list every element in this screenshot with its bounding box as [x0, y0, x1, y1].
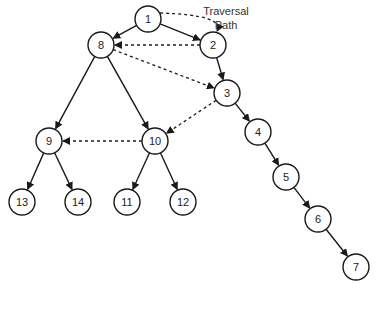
edge-10-12 — [160, 153, 177, 189]
node-7: 7 — [343, 254, 369, 280]
node-label: 12 — [177, 196, 189, 208]
edge-6-7 — [326, 229, 347, 256]
node-label: 11 — [121, 196, 132, 208]
caption-line1: Traversal — [203, 5, 248, 17]
node-label: 1 — [145, 13, 151, 25]
node-label: 4 — [255, 126, 261, 138]
node-label: 2 — [210, 39, 216, 51]
node-4: 4 — [245, 119, 271, 145]
traversal-3-10 — [167, 100, 217, 133]
caption-line2: Path — [215, 19, 238, 31]
node-label: 9 — [46, 135, 52, 147]
tree-diagram: 1283910413141112567 Traversal Path — [0, 0, 378, 312]
node-11: 11 — [114, 189, 140, 215]
node-8: 8 — [88, 32, 114, 58]
node-label: 5 — [283, 171, 289, 183]
node-label: 14 — [72, 196, 84, 208]
node-6: 6 — [305, 206, 331, 232]
tree-edges — [28, 24, 348, 256]
edge-4-5 — [265, 143, 279, 165]
edge-8-9 — [56, 56, 95, 128]
node-label: 3 — [224, 87, 230, 99]
node-1: 1 — [135, 6, 161, 32]
node-label: 8 — [98, 39, 104, 51]
node-label: 6 — [315, 213, 321, 225]
node-14: 14 — [65, 189, 91, 215]
edge-1-2 — [160, 24, 200, 40]
edge-8-10 — [107, 56, 148, 128]
node-label: 10 — [149, 135, 161, 147]
node-12: 12 — [170, 189, 196, 215]
edge-1-8 — [113, 25, 136, 38]
node-label: 7 — [353, 261, 359, 273]
traversal-8-3 — [113, 50, 214, 88]
node-2: 2 — [200, 32, 226, 58]
node-label: 13 — [16, 196, 28, 208]
node-5: 5 — [273, 164, 299, 190]
node-10: 10 — [142, 128, 168, 154]
edge-3-4 — [235, 103, 249, 121]
edge-9-14 — [55, 153, 72, 190]
traversal-path — [63, 13, 218, 141]
node-13: 13 — [9, 189, 35, 215]
node-3: 3 — [214, 80, 240, 106]
edge-2-3 — [217, 57, 223, 79]
edge-10-11 — [133, 153, 150, 189]
edge-5-6 — [294, 187, 310, 208]
tree-nodes: 1283910413141112567 — [9, 6, 369, 280]
edge-9-13 — [28, 153, 44, 189]
node-9: 9 — [36, 128, 62, 154]
